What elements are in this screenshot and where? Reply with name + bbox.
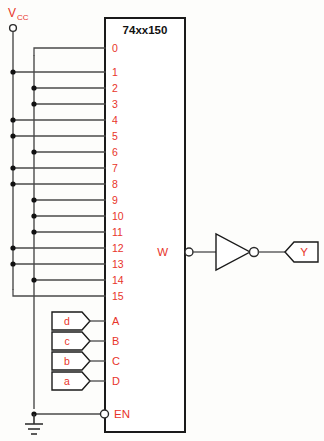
select-pin-label-d: D bbox=[112, 375, 120, 387]
data-input-label-2: 2 bbox=[112, 82, 118, 94]
select-flag-label-d: d bbox=[64, 315, 70, 327]
data-input-label-6: 6 bbox=[112, 146, 118, 158]
junction-dot-gnd-14 bbox=[31, 277, 36, 282]
data-input-label-3: 3 bbox=[112, 98, 118, 110]
output-pin-label-w: W bbox=[157, 246, 168, 258]
select-flag-label-b: b bbox=[64, 355, 70, 367]
chip-part-number: 74xx150 bbox=[123, 24, 168, 36]
data-input-wire-15 bbox=[13, 290, 105, 296]
chip-body-74xx150 bbox=[105, 18, 185, 432]
data-input-label-1: 1 bbox=[112, 66, 118, 78]
schematic-canvas: 74xx150 V CC 0 1 2 3 4 5 bbox=[0, 0, 324, 441]
junction-dot-gnd-10 bbox=[31, 213, 36, 218]
output-inversion-bubble-w bbox=[185, 248, 193, 256]
junction-dot-gnd-3 bbox=[31, 101, 36, 106]
data-input-wire-0 bbox=[34, 48, 105, 55]
output-flag-label-y: Y bbox=[300, 246, 308, 258]
data-input-label-0: 0 bbox=[112, 42, 118, 54]
not-gate-triangle[interactable] bbox=[216, 234, 250, 270]
data-input-label-14: 14 bbox=[112, 274, 124, 286]
enable-pin-label: EN bbox=[114, 408, 130, 420]
data-input-label-13: 13 bbox=[112, 258, 124, 270]
data-input-label-10: 10 bbox=[112, 210, 124, 222]
junction-dot-gnd-11 bbox=[31, 229, 36, 234]
select-pin-label-b: B bbox=[112, 335, 119, 347]
junction-dot-vcc-5 bbox=[10, 133, 15, 138]
data-input-label-5: 5 bbox=[112, 130, 118, 142]
data-input-label-15: 15 bbox=[112, 290, 124, 302]
junction-dot-gnd-2 bbox=[31, 85, 36, 90]
vcc-terminal-node bbox=[10, 25, 17, 32]
select-pin-label-a: A bbox=[112, 315, 120, 327]
not-gate-bubble bbox=[250, 248, 259, 257]
select-flag-d[interactable] bbox=[52, 312, 90, 330]
select-flag-c[interactable] bbox=[52, 332, 90, 350]
data-input-label-7: 7 bbox=[112, 162, 118, 174]
junction-dot-gnd-9 bbox=[31, 197, 36, 202]
junction-dot-vcc-1 bbox=[10, 69, 15, 74]
data-input-label-4: 4 bbox=[112, 114, 118, 126]
junction-dot-vcc-7 bbox=[10, 165, 15, 170]
junction-dot-vcc-12 bbox=[10, 245, 15, 250]
junction-dot-vcc-8 bbox=[10, 181, 15, 186]
data-input-label-11: 11 bbox=[112, 226, 123, 238]
select-flag-b[interactable] bbox=[52, 352, 90, 370]
enable-inversion-bubble bbox=[101, 410, 109, 418]
vcc-subscript: CC bbox=[17, 13, 29, 22]
select-flag-label-a: a bbox=[64, 375, 70, 387]
data-input-label-12: 12 bbox=[112, 242, 124, 254]
junction-dot-vcc-4 bbox=[10, 117, 15, 122]
vcc-label: V bbox=[8, 6, 16, 20]
junction-dot-gnd-6 bbox=[31, 149, 36, 154]
select-pin-label-c: C bbox=[112, 355, 120, 367]
select-flag-label-c: c bbox=[64, 335, 69, 347]
junction-dot-vcc-13 bbox=[10, 261, 15, 266]
select-flag-a[interactable] bbox=[52, 372, 90, 390]
data-input-label-8: 8 bbox=[112, 178, 118, 190]
data-input-label-9: 9 bbox=[112, 194, 118, 206]
